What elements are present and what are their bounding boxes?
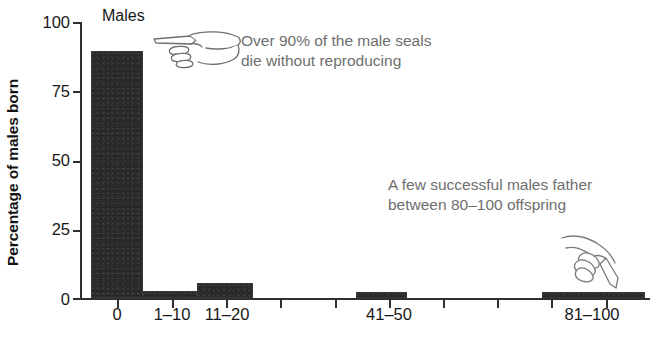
y-tick-label-75: 75 bbox=[26, 83, 70, 100]
series-label-males: Males bbox=[102, 7, 145, 25]
x-tick-mark-61-70 bbox=[497, 300, 499, 308]
y-axis-tick-labels: 100 75 50 25 0 bbox=[26, 0, 70, 345]
y-tick-mark-25 bbox=[73, 230, 80, 232]
y-tick-mark-100 bbox=[73, 22, 80, 24]
y-tick-label-50: 50 bbox=[26, 152, 70, 169]
annotation-top-line1: Over 90% of the male seals bbox=[241, 32, 431, 49]
x-tick-label-11-20: 11–20 bbox=[189, 306, 265, 323]
chart-figure: Percentage of males born 100 75 50 25 0 bbox=[0, 0, 671, 345]
x-tick-mark-21-30 bbox=[280, 300, 282, 308]
annotation-bottom-line1: A few successful males father bbox=[388, 176, 592, 193]
annotation-bottom-text: A few successful males fatherbetween 80–… bbox=[388, 175, 592, 215]
y-tick-label-25: 25 bbox=[26, 221, 70, 238]
y-axis-title: Percentage of males born bbox=[0, 0, 26, 345]
bar-1-10 bbox=[143, 291, 197, 298]
x-tick-label-0: 0 bbox=[100, 306, 134, 323]
annotation-top-line2: die without reproducing bbox=[241, 52, 401, 69]
bar-81-100 bbox=[542, 292, 645, 298]
x-tick-label-81-100: 81–100 bbox=[547, 306, 637, 323]
x-tick-label-41-50: 41–50 bbox=[351, 306, 427, 323]
annotation-top-text: Over 90% of the male sealsdie without re… bbox=[241, 31, 431, 71]
x-axis-line bbox=[80, 298, 650, 300]
annotation-bottom-line2: between 80–100 offspring bbox=[388, 196, 566, 213]
y-tick-mark-50 bbox=[73, 161, 80, 163]
y-tick-label-100: 100 bbox=[26, 14, 70, 31]
x-tick-mark-31-40 bbox=[335, 300, 337, 308]
bar-0 bbox=[91, 51, 143, 298]
y-axis-line bbox=[80, 22, 82, 300]
bar-11-20 bbox=[197, 283, 253, 298]
y-tick-label-0: 0 bbox=[26, 291, 70, 308]
bar-41-50 bbox=[356, 292, 407, 298]
x-tick-mark-51-60 bbox=[443, 300, 445, 308]
y-tick-mark-75 bbox=[73, 91, 80, 93]
y-tick-mark-0 bbox=[73, 298, 80, 300]
